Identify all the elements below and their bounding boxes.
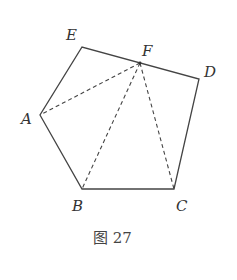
- label-E: E: [65, 26, 77, 44]
- pentagon-ABCDE: [40, 47, 199, 189]
- segment-FC: [140, 63, 174, 189]
- label-B: B: [71, 197, 83, 215]
- figure-caption: 图 27: [93, 229, 132, 247]
- pentagon-diagram: E F D A B C 图 27: [0, 0, 237, 280]
- label-A: A: [19, 110, 32, 128]
- segment-FB: [82, 63, 140, 189]
- point-F-marker: [139, 62, 142, 65]
- segment-FA: [40, 63, 140, 115]
- label-D: D: [203, 63, 216, 81]
- label-C: C: [176, 197, 188, 215]
- label-F: F: [141, 42, 153, 60]
